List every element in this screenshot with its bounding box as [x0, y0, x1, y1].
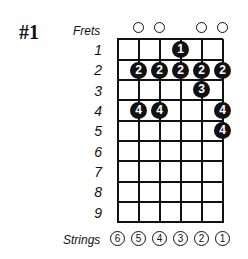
string-number: 3	[173, 231, 188, 246]
string-number: 4	[152, 231, 167, 246]
fret-number: 6	[82, 144, 102, 160]
open-string-icon	[217, 22, 228, 33]
fret-number: 1	[82, 42, 102, 58]
finger-dot: 4	[214, 122, 231, 139]
diagram-title: #1	[19, 21, 39, 44]
fret-line	[117, 120, 223, 122]
fret-line	[117, 99, 223, 101]
finger-dot: 2	[151, 62, 168, 79]
fret-number: 2	[82, 62, 102, 78]
string-number: 1	[215, 231, 230, 246]
finger-dot: 2	[214, 62, 231, 79]
fret-number: 8	[82, 184, 102, 200]
finger-dot: 1	[172, 41, 189, 58]
finger-dot: 2	[130, 62, 147, 79]
finger-dot: 4	[214, 102, 231, 119]
open-string-icon	[196, 22, 207, 33]
fret-number: 7	[82, 164, 102, 180]
finger-dot: 2	[193, 62, 210, 79]
string-number: 6	[110, 231, 125, 246]
finger-dot: 4	[151, 102, 168, 119]
fret-line	[117, 160, 223, 162]
strings-label: Strings	[63, 233, 100, 247]
fret-line	[117, 79, 223, 81]
fret-number: 4	[82, 103, 102, 119]
string-number: 5	[131, 231, 146, 246]
fret-number: 5	[82, 123, 102, 139]
fret-line	[117, 201, 223, 203]
finger-dot: 4	[130, 102, 147, 119]
fret-line	[117, 59, 223, 61]
finger-dot: 3	[193, 81, 210, 98]
fret-number: 9	[82, 205, 102, 221]
string-number: 2	[194, 231, 209, 246]
fret-line	[117, 181, 223, 183]
nut-line	[117, 38, 223, 40]
open-string-icon	[133, 22, 144, 33]
fret-line	[117, 140, 223, 142]
open-string-icon	[154, 22, 165, 33]
fret-number: 3	[82, 83, 102, 99]
frets-label: Frets	[73, 24, 100, 38]
string-line	[117, 39, 119, 223]
fret-line	[117, 221, 223, 223]
finger-dot: 2	[172, 62, 189, 79]
